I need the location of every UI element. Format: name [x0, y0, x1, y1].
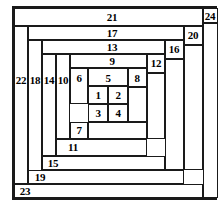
- region-label-15: 15: [48, 158, 58, 169]
- region-label-4: 4: [115, 108, 120, 119]
- region-13: [42, 40, 165, 54]
- region-label-17: 17: [107, 28, 117, 39]
- region-label-3: 3: [95, 108, 100, 119]
- region-label-24: 24: [205, 11, 215, 22]
- region-label-8: 8: [134, 73, 139, 84]
- region-label-20: 20: [188, 30, 198, 41]
- region-label-2: 2: [115, 90, 120, 101]
- region-22: [14, 26, 28, 184]
- region-label-12: 12: [151, 58, 161, 69]
- region-label-9: 9: [109, 56, 114, 67]
- unlabeled-region-r-24-below: [203, 23, 218, 198]
- unlabeled-region-r-inner-bottom: [88, 122, 147, 139]
- region-18: [28, 40, 42, 184]
- region-label-6: 6: [76, 73, 81, 84]
- unlabeled-region-r-right-col: [147, 73, 165, 139]
- region-label-19: 19: [35, 172, 45, 183]
- region-14: [42, 54, 56, 156]
- region-label-11: 11: [68, 142, 78, 153]
- unlabeled-region-r-8-below: [128, 87, 147, 122]
- unlabeled-region-r-20-below: [184, 45, 203, 170]
- region-label-1: 1: [95, 90, 100, 101]
- region-label-22: 22: [16, 75, 26, 86]
- region-label-18: 18: [30, 75, 40, 86]
- region-label-7: 7: [76, 125, 81, 136]
- region-label-13: 13: [107, 42, 117, 53]
- region-10: [56, 54, 70, 139]
- region-label-21: 21: [107, 12, 117, 23]
- region-15: [42, 156, 165, 170]
- region-23: [14, 184, 203, 198]
- unlabeled-region-r-16-below: [165, 59, 184, 170]
- region-19: [28, 170, 184, 184]
- squared-rectangle-diagram: 123456789101112131415161718192021222324: [0, 0, 219, 203]
- region-label-16: 16: [169, 44, 179, 55]
- region-label-10: 10: [58, 75, 68, 86]
- region-label-5: 5: [105, 73, 110, 84]
- region-label-23: 23: [20, 186, 30, 197]
- region-label-14: 14: [44, 75, 54, 86]
